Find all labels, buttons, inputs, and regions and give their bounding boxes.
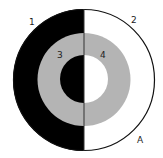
concentric-circle-diagram: 1 2 3 4 A xyxy=(0,0,163,158)
label-region-4: 4 xyxy=(100,50,106,60)
label-point-a: A xyxy=(137,135,144,145)
label-region-3: 3 xyxy=(57,50,63,60)
label-region-2: 2 xyxy=(131,15,137,25)
label-region-1: 1 xyxy=(29,17,35,27)
